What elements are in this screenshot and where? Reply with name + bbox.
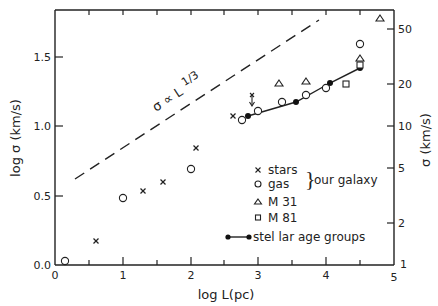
- star-marker-icon: [161, 180, 166, 185]
- legend-m81-icon: [256, 215, 261, 220]
- svg-text:1: 1: [400, 258, 407, 271]
- svg-text:10: 10: [398, 120, 412, 133]
- svg-text:0.0: 0.0: [34, 259, 52, 272]
- plot-frame: [55, 10, 394, 265]
- svg-text:1: 1: [120, 269, 127, 282]
- legend-m31-icon: [255, 199, 262, 204]
- svg-text:3: 3: [255, 269, 262, 282]
- svg-text:2: 2: [398, 217, 405, 230]
- scaling-relation-annotation: σ ∝ L 1/3: [147, 68, 204, 114]
- svg-text:1/3: 1/3: [179, 68, 201, 89]
- svg-text:5: 5: [398, 162, 405, 175]
- svg-text:1.0: 1.0: [34, 120, 52, 133]
- star-marker-icon: [194, 146, 199, 151]
- legend-gas-label: gas: [268, 177, 289, 191]
- star-marker-icon: [231, 114, 236, 119]
- y-right-axis-title: σ (km/s): [418, 113, 433, 167]
- svg-text:0: 0: [52, 269, 59, 282]
- legend-stars-icon: [256, 168, 261, 173]
- legend-our-galaxy-label: our galaxy: [314, 173, 378, 187]
- y-right-tick-labels: 1 2 5 10 20 50: [398, 23, 412, 271]
- upper-limit-arrow-icon: [250, 93, 255, 106]
- svg-text:50: 50: [398, 23, 412, 36]
- chart-canvas: 0 1 2 3 4 5 0.0 0.5 1.0 1.5 1 2 5 10 20 …: [0, 0, 438, 306]
- legend: stars gas } our galaxy M 31 M 81 stel la…: [225, 163, 377, 244]
- star-marker-icon: [141, 189, 146, 194]
- x-tick-labels: 0 1 2 3 4 5: [52, 269, 398, 284]
- y-axis-title: log σ (km/s): [8, 99, 23, 177]
- svg-text:2: 2: [188, 269, 195, 282]
- y-right-axis-ticks: [387, 29, 394, 223]
- x-axis-ticks: [89, 10, 360, 265]
- star-marker-icon: [94, 239, 99, 244]
- x-axis-title: log L(pc): [198, 287, 255, 302]
- svg-text:5: 5: [391, 271, 398, 284]
- y-axis-ticks: [55, 57, 63, 196]
- svg-text:1.5: 1.5: [34, 51, 52, 64]
- legend-m31-label: M 31: [268, 195, 297, 209]
- svg-text:20: 20: [398, 78, 412, 91]
- y-tick-labels: 0.0 0.5 1.0 1.5: [34, 51, 52, 272]
- legend-gas-icon: [255, 181, 261, 187]
- svg-text:4: 4: [323, 269, 330, 282]
- legend-m81-label: M 81: [268, 211, 297, 225]
- series-m31: [275, 15, 384, 86]
- legend-age-groups-icon: [225, 234, 251, 239]
- svg-text:0.5: 0.5: [34, 190, 52, 203]
- legend-age-groups-label: stel lar age groups: [253, 230, 365, 244]
- legend-stars-label: stars: [268, 163, 298, 177]
- series-stars: [94, 114, 236, 244]
